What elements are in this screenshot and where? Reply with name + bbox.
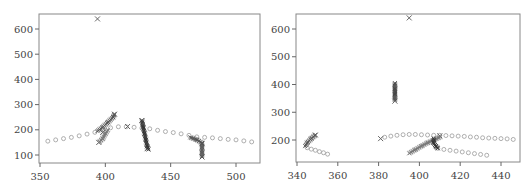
- data-point-circle: [389, 134, 393, 138]
- data-point-cross: [378, 136, 383, 141]
- data-point-cross: [407, 15, 412, 20]
- x-tick-label: 400: [410, 170, 429, 181]
- data-point-circle: [456, 134, 460, 138]
- data-point-circle: [326, 152, 330, 156]
- y-tick-label: 200: [14, 124, 33, 135]
- y-tick-label: 600: [271, 24, 290, 35]
- data-point-circle: [242, 139, 246, 143]
- data-point-circle: [462, 134, 466, 138]
- data-point-circle: [317, 150, 321, 154]
- y-tick-label: 100: [14, 150, 33, 161]
- data-point-circle: [475, 135, 479, 139]
- series-ground-truth-track-circles: [46, 125, 254, 144]
- y-tick-label: 300: [14, 99, 33, 110]
- data-point-circle: [85, 132, 89, 136]
- data-point-circle: [493, 136, 497, 140]
- data-point-circle: [226, 137, 230, 141]
- data-point-circle: [442, 147, 446, 151]
- y-tick-label: 300: [271, 107, 290, 118]
- data-point-circle: [485, 153, 489, 157]
- y-tick-label: 500: [14, 49, 33, 60]
- y-tick-label: 400: [14, 74, 33, 85]
- data-point-circle: [419, 133, 423, 137]
- x-tick-label: 400: [96, 171, 115, 182]
- x-tick-label: 500: [226, 171, 245, 182]
- data-point-circle: [426, 133, 430, 137]
- data-point-circle: [163, 130, 167, 134]
- data-point-circle: [511, 137, 515, 141]
- data-point-circle: [132, 125, 136, 129]
- data-point-circle: [69, 135, 73, 139]
- data-point-circle: [450, 134, 454, 138]
- data-point-circle: [479, 152, 483, 156]
- y-tick-label: 400: [271, 79, 290, 90]
- data-point-circle: [218, 137, 222, 141]
- data-point-circle: [395, 133, 399, 137]
- data-point-circle: [383, 135, 387, 139]
- data-point-circle: [468, 135, 472, 139]
- data-point-circle: [234, 138, 238, 142]
- data-point-circle: [444, 134, 448, 138]
- x-tick-label: 440: [491, 170, 510, 181]
- data-point-circle: [54, 138, 58, 142]
- data-point-circle: [210, 136, 214, 140]
- y-tick-label: 500: [271, 51, 290, 62]
- data-point-circle: [505, 137, 509, 141]
- data-point-circle: [472, 152, 476, 156]
- x-tick-label: 360: [328, 170, 347, 181]
- data-point-circle: [179, 132, 183, 136]
- data-point-circle: [322, 151, 326, 155]
- data-point-circle: [487, 136, 491, 140]
- data-point-circle: [171, 131, 175, 135]
- data-point-circle: [460, 150, 464, 154]
- data-point-circle: [62, 137, 66, 141]
- data-point-circle: [448, 148, 452, 152]
- chart-canvas: 350400450500100200300400500600 340360380…: [0, 0, 531, 191]
- data-point-cross: [95, 16, 100, 21]
- x-tick-label: 420: [451, 170, 470, 181]
- data-point-circle: [407, 132, 411, 136]
- plot-frame: [296, 14, 520, 162]
- x-tick-label: 340: [287, 170, 306, 181]
- x-tick-label: 380: [369, 170, 388, 181]
- data-point-circle: [46, 139, 50, 143]
- data-point-circle: [313, 148, 317, 152]
- data-point-circle: [401, 133, 405, 137]
- x-tick-label: 350: [30, 171, 49, 182]
- data-point-circle: [454, 149, 458, 153]
- right-plot-panel: 340360380400420440200300400500600: [271, 14, 520, 181]
- y-tick-label: 200: [271, 135, 290, 146]
- series-dense-segment-d: [188, 135, 204, 159]
- series-dense-segment-c: [140, 118, 151, 151]
- data-point-circle: [309, 147, 313, 151]
- data-point-circle: [466, 151, 470, 155]
- data-point-circle: [116, 125, 120, 129]
- y-tick-label: 600: [14, 24, 33, 35]
- series-dense-segment-a: [303, 133, 317, 148]
- data-point-circle: [499, 137, 503, 141]
- left-plot-panel: 350400450500100200300400500600: [14, 14, 260, 182]
- data-point-circle: [481, 136, 485, 140]
- data-point-circle: [77, 134, 81, 138]
- x-tick-label: 450: [161, 171, 180, 182]
- data-point-circle: [156, 128, 160, 132]
- series-estimated-track-crosses: [313, 15, 442, 141]
- series-dense-segment-b: [393, 81, 397, 102]
- series-estimated-track-crosses: [95, 16, 205, 159]
- data-point-circle: [148, 127, 152, 131]
- data-point-circle: [413, 132, 417, 136]
- data-point-circle: [250, 140, 254, 144]
- data-point-circle: [203, 135, 207, 139]
